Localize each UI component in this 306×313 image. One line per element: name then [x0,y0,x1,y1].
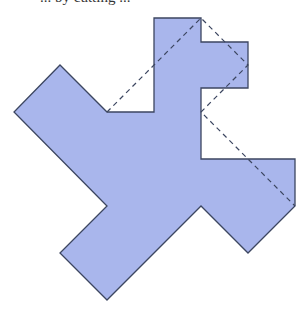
cross-shape-diagram [0,0,306,313]
composite-cross-polygon [14,18,295,300]
